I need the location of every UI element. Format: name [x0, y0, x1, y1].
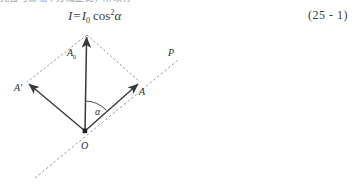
formula-equals: =	[73, 8, 80, 23]
formula-lhs: I	[68, 8, 72, 23]
formula-function: cos	[93, 8, 110, 23]
label-p: P	[167, 47, 174, 58]
vector-a-prime	[29, 84, 85, 131]
label-alpha: α	[95, 106, 101, 117]
textbook-page-figure: 光强与振幅平方成正比，所以有 I=I0cos2α (25 - 1)	[0, 0, 360, 189]
label-a: A	[138, 86, 146, 97]
truncated-text-line: 光强与振幅平方成正比，所以有	[0, 0, 360, 3]
vector-a0	[85, 37, 87, 131]
polarizer-axis-line	[35, 60, 178, 178]
formula-rhs-subscript: 0	[86, 16, 90, 25]
vector-decomposition-figure: A0 A' A P α O	[0, 25, 220, 189]
equation-number: (25 - 1)	[308, 8, 348, 23]
construction-line-left	[27, 35, 87, 82]
label-origin: O	[81, 140, 88, 151]
label-a0: A0	[66, 47, 76, 60]
origin-marker	[83, 129, 88, 134]
displayed-formula: I=I0cos2α	[68, 8, 121, 25]
figure-svg: A0 A' A P α O	[0, 25, 220, 189]
label-a-prime: A'	[13, 82, 23, 93]
formula-angle-symbol: α	[114, 8, 121, 23]
vector-a	[85, 84, 138, 131]
construction-line-right	[87, 35, 140, 82]
